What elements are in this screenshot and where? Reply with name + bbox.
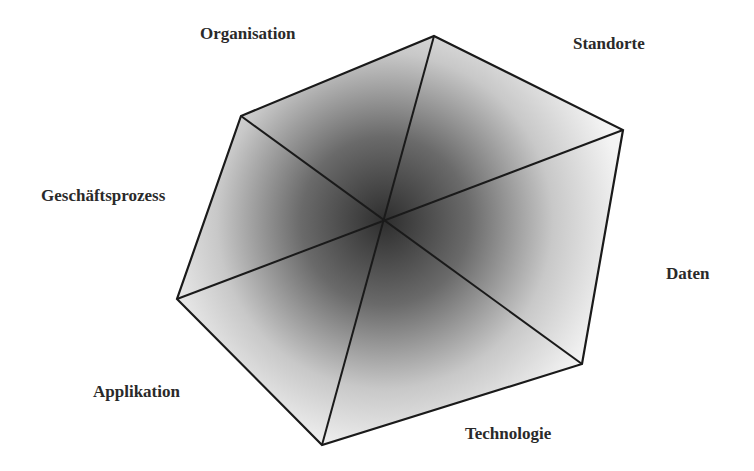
label-geschaeftsprozess: Geschäftsprozess <box>41 186 165 206</box>
hexagon-shape <box>177 36 623 445</box>
label-technologie: Technologie <box>465 424 551 444</box>
label-daten: Daten <box>666 264 709 284</box>
label-standorte: Standorte <box>573 34 645 54</box>
hexagon-diagram: Organisation Standorte Geschäftsprozess … <box>0 0 754 471</box>
label-applikation: Applikation <box>93 382 180 402</box>
label-organisation: Organisation <box>200 24 295 44</box>
